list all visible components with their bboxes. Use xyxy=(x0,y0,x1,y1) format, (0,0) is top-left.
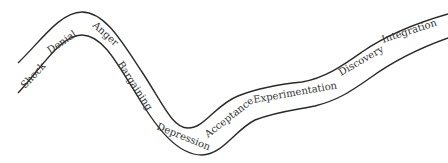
stage-label-bargaining: Bargaining xyxy=(115,59,155,113)
stage-label-depression: Depression xyxy=(155,121,212,153)
stage-label-shock: Shock xyxy=(18,60,48,91)
stage-label-denial: Denial xyxy=(45,28,78,55)
stage-label-integration: Integration xyxy=(380,17,438,45)
change-curve-diagram: Shock Denial Anger Bargaining Depression… xyxy=(0,0,448,163)
